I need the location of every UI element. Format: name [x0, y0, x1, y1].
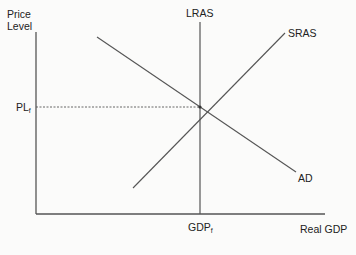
y-axis-label-line1: Price [7, 8, 32, 20]
gdpf-label: GDPf [188, 221, 213, 237]
equilibrium-point [198, 105, 201, 108]
gdpf-label-main: GDP [188, 221, 211, 233]
plf-label: PLf [16, 101, 31, 117]
ad-label: AD [298, 172, 313, 184]
plf-label-main: PL [16, 101, 29, 113]
x-axis-label: Real GDP [300, 223, 347, 235]
ad-line [97, 37, 296, 172]
lras-label: LRAS [186, 7, 213, 19]
plf-label-sub: f [29, 107, 31, 114]
y-axis-label-line2: Level [7, 20, 32, 32]
sras-label: SRAS [288, 27, 317, 39]
gdpf-label-sub: f [211, 227, 213, 234]
sras-line [133, 33, 285, 188]
y-axis-label: Price Level [7, 8, 32, 32]
